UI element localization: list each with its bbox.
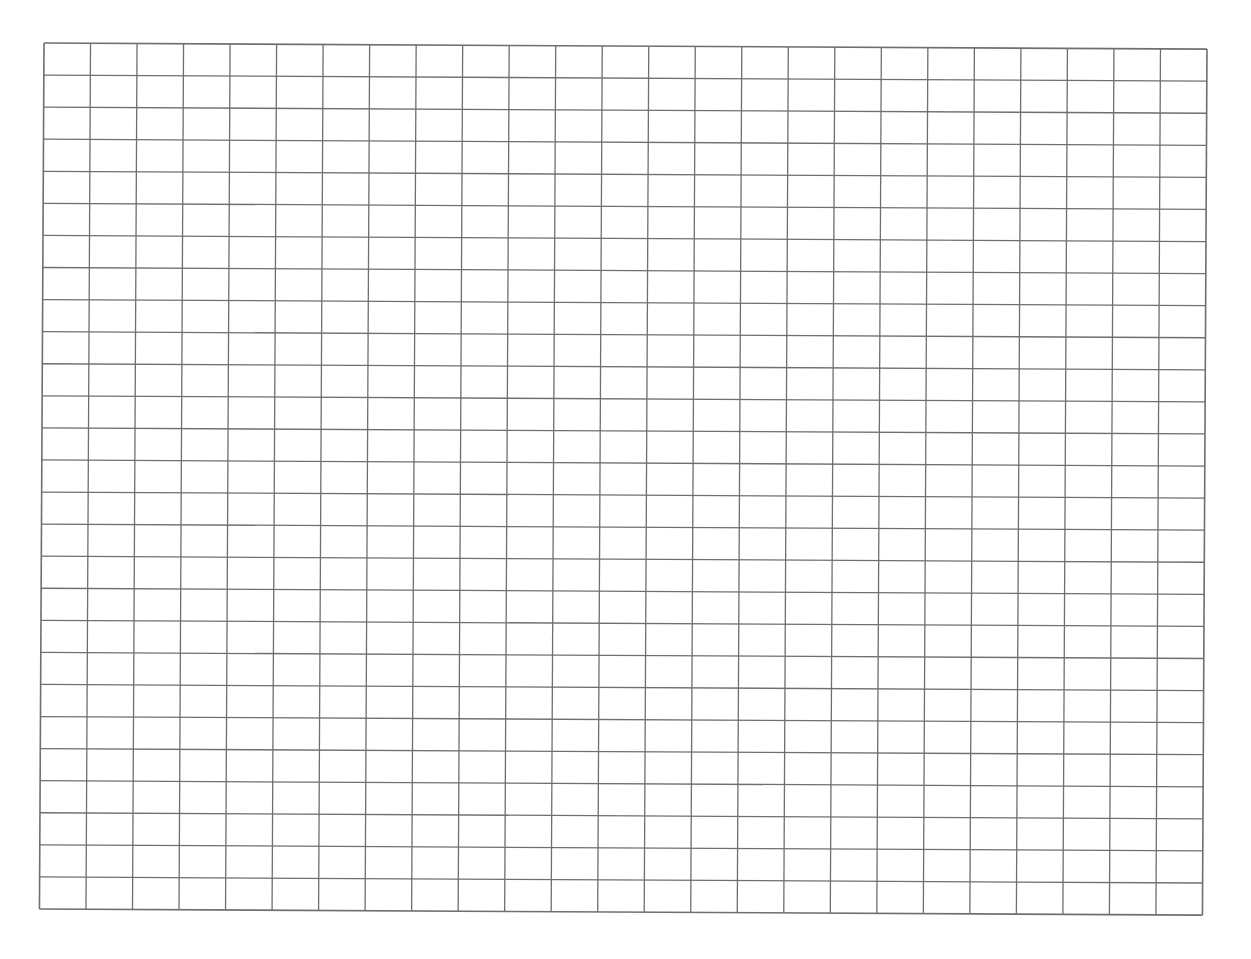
grid-line-vertical — [272, 44, 277, 910]
grid-line-horizontal — [40, 781, 1203, 787]
grid-line-horizontal — [42, 492, 1205, 498]
grid-line-vertical — [644, 46, 649, 912]
grid-line-vertical — [179, 44, 184, 910]
grid-line-vertical — [970, 48, 975, 914]
grid-line-vertical — [458, 45, 463, 911]
grid-line-vertical — [923, 48, 928, 914]
graph-paper-grid — [39, 43, 1207, 915]
grid-line-horizontal — [43, 300, 1206, 306]
grid-line-horizontal — [41, 588, 1204, 594]
grid-line-vertical — [737, 47, 742, 913]
grid-line-horizontal — [41, 684, 1204, 690]
grid-line-vertical — [1109, 49, 1114, 915]
grid-line-horizontal — [40, 717, 1203, 723]
grid-line-vertical — [1156, 49, 1161, 915]
grid-line-vertical — [226, 44, 231, 910]
grid-line-horizontal — [40, 845, 1203, 851]
page-canvas — [0, 0, 1251, 959]
grid-border-vertical — [39, 43, 44, 909]
grid-line-horizontal — [44, 75, 1207, 81]
grid-line-vertical — [133, 43, 138, 909]
grid-border-horizontal — [44, 43, 1207, 49]
grid-line-horizontal — [40, 877, 1203, 883]
grid-border-vertical — [1202, 49, 1207, 915]
grid-line-horizontal — [44, 107, 1207, 113]
grid-line-vertical — [86, 43, 91, 909]
grid-line-horizontal — [42, 428, 1205, 434]
grid-line-vertical — [598, 46, 603, 912]
grid-line-vertical — [319, 44, 324, 910]
grid-line-vertical — [691, 46, 696, 912]
grid-line-horizontal — [41, 620, 1204, 626]
grid-line-horizontal — [43, 268, 1206, 274]
grid-line-horizontal — [41, 524, 1204, 530]
grid-line-vertical — [412, 45, 417, 911]
grid-line-vertical — [551, 46, 556, 912]
grid-line-horizontal — [40, 749, 1203, 755]
grid-lines — [39, 43, 1207, 915]
grid-line-horizontal — [43, 171, 1206, 177]
grid-line-vertical — [877, 47, 882, 913]
grid-line-vertical — [365, 45, 370, 911]
grid-line-vertical — [1016, 48, 1021, 914]
grid-line-horizontal — [43, 235, 1206, 241]
grid-line-horizontal — [41, 556, 1204, 562]
grid-line-horizontal — [42, 332, 1205, 338]
grid-line-vertical — [830, 47, 835, 913]
grid-line-horizontal — [41, 652, 1204, 658]
grid-line-horizontal — [43, 139, 1206, 145]
grid-line-vertical — [505, 45, 510, 911]
grid-line-horizontal — [42, 460, 1205, 466]
grid-line-vertical — [784, 47, 789, 913]
grid-line-horizontal — [42, 396, 1205, 402]
grid-border-horizontal — [39, 909, 1202, 915]
grid-line-horizontal — [42, 364, 1205, 370]
grid-line-vertical — [1063, 48, 1068, 914]
grid-line-horizontal — [40, 813, 1203, 819]
grid-line-horizontal — [43, 203, 1206, 209]
